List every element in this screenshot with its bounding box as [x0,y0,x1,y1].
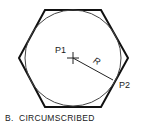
center-label: P1 [55,45,66,55]
radius-label: R [91,55,102,67]
vertex-label: P2 [119,80,130,90]
caption: B. CIRCUMSCRIBED [5,113,95,123]
circumscribed-hexagon-diagram: P1 R P2 B. CIRCUMSCRIBED [0,0,147,125]
center-cross-icon [67,52,79,64]
